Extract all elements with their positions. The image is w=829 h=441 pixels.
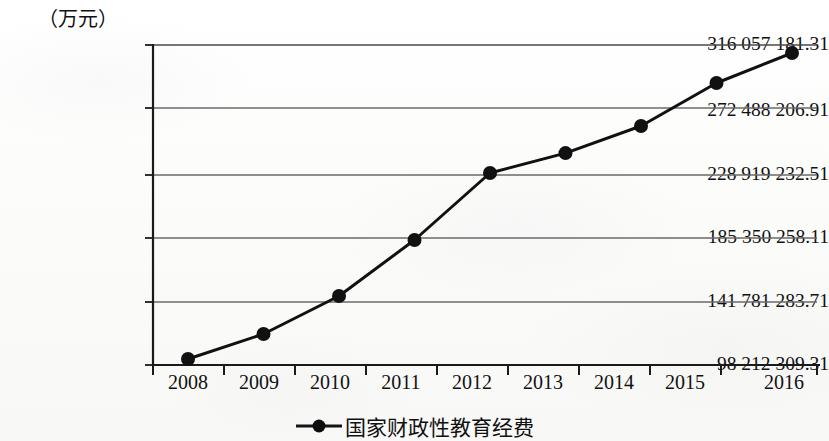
legend-line-circle-marker-icon: [296, 416, 342, 436]
data-point-2013: [559, 146, 573, 160]
y-axis-ticks: [145, 45, 153, 365]
x-tick-label-2012: 2012: [440, 371, 504, 394]
x-tick-label-2014: 2014: [582, 371, 646, 394]
data-point-2008: [181, 352, 195, 366]
data-point-2012: [483, 166, 497, 180]
x-tick-label-2010: 2010: [298, 371, 362, 394]
x-tick-label-2016: 2016: [752, 371, 816, 394]
data-point-2010: [332, 289, 346, 303]
x-tick-label-2015: 2015: [653, 371, 717, 394]
x-tick-label-2008: 2008: [156, 371, 220, 394]
x-tick-label-2009: 2009: [227, 371, 291, 394]
x-tick-label-2011: 2011: [369, 371, 433, 394]
data-point-2016: [785, 46, 799, 60]
x-tick-label-2013: 2013: [511, 371, 575, 394]
series-line-national-fiscal-education-funds: [188, 53, 792, 359]
chart-legend: 国家财政性教育经费: [0, 411, 829, 441]
line-chart: （万元） 98 212 309.31 141 781 283.71 185 35…: [0, 0, 829, 441]
legend-item-label: 国家财政性教育经费: [345, 411, 534, 441]
data-point-2014: [634, 119, 648, 133]
data-point-2011: [408, 233, 422, 247]
series-markers: [181, 46, 799, 366]
data-point-2015: [710, 76, 724, 90]
data-point-2009: [257, 327, 271, 341]
